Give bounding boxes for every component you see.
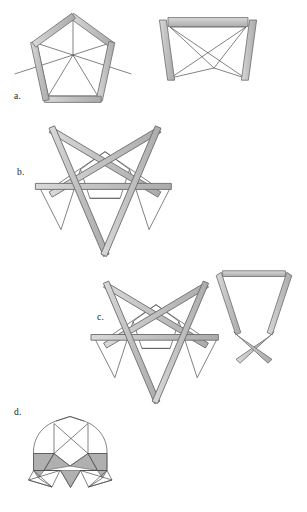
figure-a xyxy=(15,13,257,102)
figure-canvas xyxy=(0,0,307,512)
strut xyxy=(96,41,115,101)
figure-c-star-struts xyxy=(91,281,218,404)
strut xyxy=(45,96,102,102)
figure-a-folded-spokes xyxy=(170,27,246,78)
strut xyxy=(267,272,292,335)
strut xyxy=(35,183,171,189)
figure-a-folded-struts xyxy=(159,18,256,81)
strut xyxy=(241,20,256,80)
strut xyxy=(70,13,113,47)
strut xyxy=(91,335,218,341)
figure-c xyxy=(91,271,292,404)
figure-c-pentagon-struts xyxy=(216,271,292,363)
strut xyxy=(31,41,50,101)
strut xyxy=(216,272,241,335)
figure-label-d: d. xyxy=(14,407,22,417)
figure-a-pentagon-spokes xyxy=(15,17,132,96)
strut xyxy=(223,271,286,277)
figure-label-a: a. xyxy=(14,91,21,101)
figure-b xyxy=(35,126,171,257)
strut xyxy=(32,13,75,47)
strut xyxy=(168,18,248,27)
figure-d xyxy=(29,417,113,488)
figure-b-struts xyxy=(35,126,171,257)
figure-label-c: c. xyxy=(97,312,104,322)
figure-label-b: b. xyxy=(17,167,25,177)
